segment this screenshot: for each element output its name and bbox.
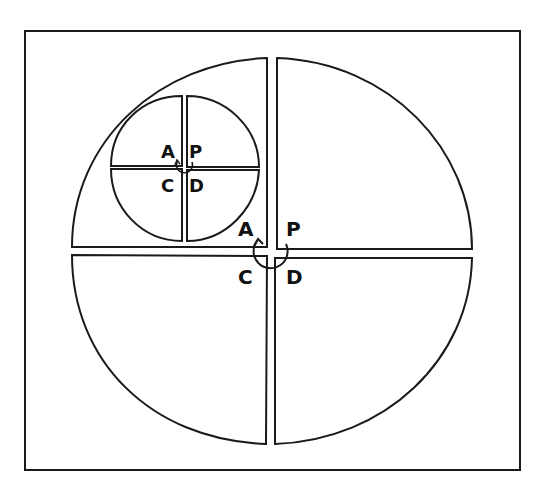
small-circle — [111, 96, 259, 241]
small-label-p: P — [189, 141, 202, 162]
large-label-a: A — [238, 217, 254, 241]
small-label-c: C — [161, 175, 174, 196]
large-label-p: P — [286, 217, 301, 241]
large-quadrant-top-right — [277, 58, 472, 249]
diagram-canvas: A P C D A P C D — [0, 0, 539, 484]
small-label-d: D — [189, 175, 204, 196]
large-rotation-arrow-icon — [254, 239, 288, 268]
large-label-d: D — [286, 265, 303, 289]
large-label-c: C — [238, 265, 253, 289]
outer-frame — [25, 31, 520, 470]
small-label-a: A — [161, 141, 175, 162]
large-quadrant-bottom-right — [275, 258, 472, 444]
